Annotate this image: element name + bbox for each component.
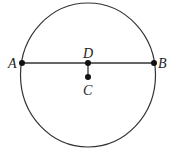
diagram-canvas: A B D C: [0, 0, 179, 156]
point-a: [19, 60, 25, 66]
label-a: A: [7, 56, 17, 71]
label-d: D: [82, 46, 93, 61]
label-b: B: [158, 56, 167, 71]
geometry-diagram: A B D C: [0, 0, 179, 156]
label-c: C: [83, 83, 93, 98]
point-c: [85, 74, 91, 80]
point-b: [151, 60, 157, 66]
